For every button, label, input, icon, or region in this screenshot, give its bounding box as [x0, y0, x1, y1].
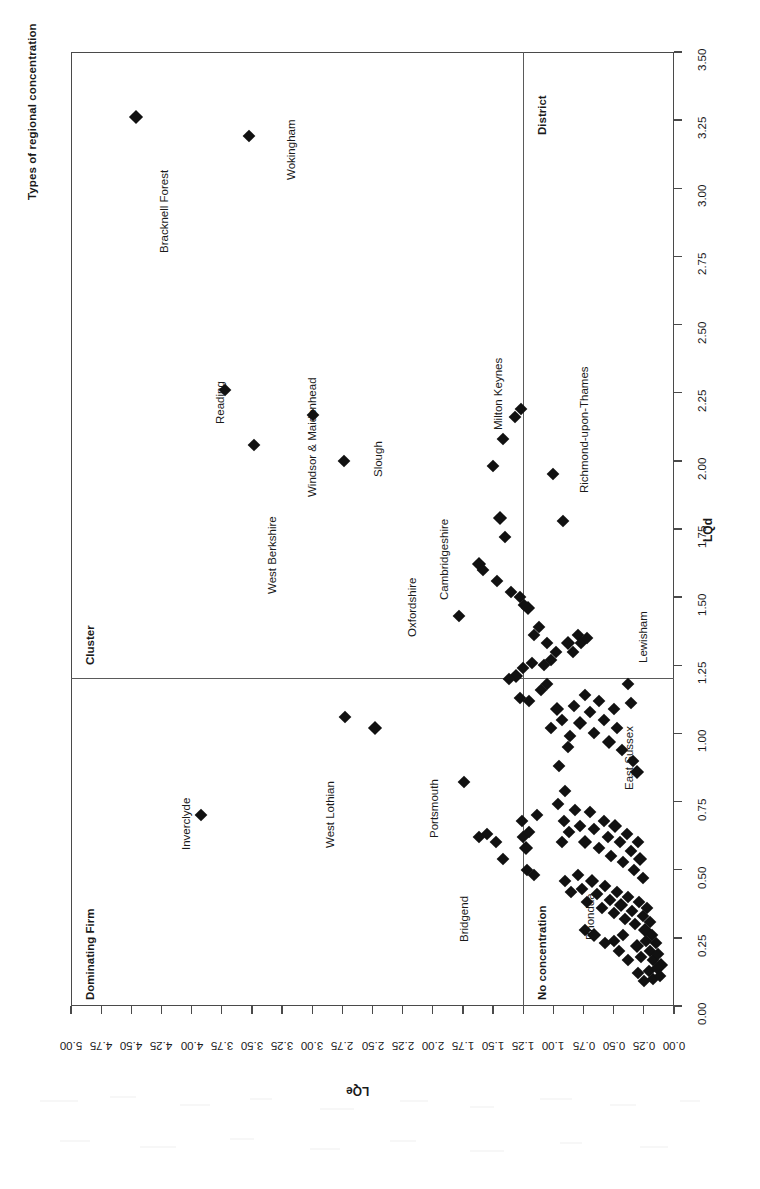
- reference-line-lqd: [71, 678, 674, 679]
- point-label-windsor-maidenhead: Windsor & Maidenhead: [306, 377, 318, 497]
- tick-mark-lqe: [101, 1006, 102, 1014]
- tick-mark-lqe: [492, 1006, 493, 1014]
- tick-mark-lqd: [674, 392, 682, 393]
- tick-label-lqd: 3.25: [696, 117, 708, 139]
- tick-mark-lqd: [674, 665, 682, 666]
- tick-label-lqd: 3.00: [696, 185, 708, 207]
- point-label-bracknell-forest: Bracknell Forest: [158, 170, 170, 253]
- point-label-cambridgeshire: Cambridgeshire: [438, 519, 450, 600]
- tick-mark-lqd: [674, 869, 682, 870]
- tick-mark-lqd: [674, 51, 682, 52]
- tick-mark-lqe: [553, 1006, 554, 1014]
- tick-label-lqd: 1.50: [696, 594, 708, 616]
- tick-mark-lqe: [281, 1006, 282, 1014]
- quadrant-label-dominating-firm: Dominating Firm: [84, 909, 96, 1000]
- tick-label-lqd: 2.75: [696, 253, 708, 275]
- tick-label-lqd: 0.25: [696, 934, 708, 956]
- tick-mark-lqd: [674, 801, 682, 802]
- tick-mark-lqd: [674, 256, 682, 257]
- tick-label-lqd: 1.00: [696, 730, 708, 752]
- figure-title: Types of regional concentration: [26, 23, 38, 200]
- point-label-inverclyde: Inverclyde: [180, 798, 192, 850]
- axis-title-lqe: LQe: [346, 1084, 369, 1098]
- tick-mark-lqe: [583, 1006, 584, 1014]
- tick-label-lqd: 0.50: [696, 866, 708, 888]
- tick-label-lqd: 3.50: [696, 49, 708, 71]
- quadrant-label-cluster: Cluster: [84, 625, 96, 665]
- point-label-richmond-upon-thames: Richmond-upon-Thames: [578, 366, 590, 493]
- point-label-lewisham: Lewisham: [637, 611, 649, 663]
- tick-mark-lqe: [613, 1006, 614, 1014]
- tick-mark-lqd: [674, 188, 682, 189]
- tick-mark-lqe: [251, 1006, 252, 1014]
- tick-label-lqe: 0.00: [652, 1040, 696, 1052]
- tick-mark-lqe: [523, 1006, 524, 1014]
- tick-mark-lqe: [191, 1006, 192, 1014]
- tick-mark-lqe: [131, 1006, 132, 1014]
- point-label-west-lothian: West Lothian: [324, 781, 336, 848]
- point-label-portsmouth: Portsmouth: [428, 779, 440, 838]
- point-label-oxfordshire: Oxfordshire: [406, 578, 418, 637]
- reference-line-lqe: [523, 52, 524, 1006]
- point-label-slough: Slough: [372, 441, 384, 477]
- tick-label-lqd: 1.75: [696, 526, 708, 548]
- tick-mark-lqd: [674, 460, 682, 461]
- tick-mark-lqd: [674, 528, 682, 529]
- tick-mark-lqd: [674, 1005, 682, 1006]
- tick-mark-lqd: [674, 937, 682, 938]
- tick-label-lqd: 2.00: [696, 457, 708, 479]
- tick-mark-lqd: [674, 733, 682, 734]
- point-label-wokingham: Wokingham: [285, 119, 297, 180]
- tick-mark-lqe: [161, 1006, 162, 1014]
- quadrant-label-district: District: [536, 95, 548, 135]
- tick-mark-lqe: [372, 1006, 373, 1014]
- point-label-bridgend: Bridgend: [458, 896, 470, 942]
- tick-label-lqd: 1.25: [696, 662, 708, 684]
- tick-mark-lqe: [70, 1006, 71, 1014]
- tick-label-lqd: 0.75: [696, 798, 708, 820]
- tick-mark-lqe: [432, 1006, 433, 1014]
- tick-mark-lqe: [221, 1006, 222, 1014]
- tick-mark-lqe: [673, 1006, 674, 1014]
- tick-mark-lqe: [312, 1006, 313, 1014]
- tick-mark-lqd: [674, 596, 682, 597]
- tick-mark-lqe: [342, 1006, 343, 1014]
- point-label-west-berkshire: West Berkshire: [266, 516, 278, 594]
- tick-label-lqd: 2.25: [696, 389, 708, 411]
- tick-mark-lqe: [643, 1006, 644, 1014]
- tick-label-lqd: 2.50: [696, 321, 708, 343]
- tick-mark-lqe: [462, 1006, 463, 1014]
- figure-canvas: Types of regional concentration Dominati…: [0, 0, 760, 1189]
- tick-mark-lqe: [402, 1006, 403, 1014]
- tick-mark-lqd: [674, 324, 682, 325]
- tick-label-lqd: 0.00: [696, 1003, 708, 1025]
- tick-mark-lqd: [674, 119, 682, 120]
- quadrant-label-no-concentration: No concentration: [536, 905, 548, 1000]
- point-label-milton-keynes: Milton Keynes: [492, 358, 504, 430]
